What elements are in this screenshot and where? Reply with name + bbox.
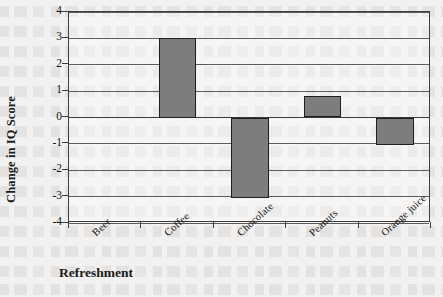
y-axis-tick-label: 3: [40, 32, 62, 44]
gridline: [69, 91, 429, 92]
bar-chocolate[interactable]: [231, 118, 269, 198]
x-axis-tick-mark: [430, 222, 431, 228]
y-axis-tick-labels: 43210-1-2-3-4: [38, 11, 62, 222]
bar-orange-juice[interactable]: [376, 118, 414, 146]
y-axis-tick-label: 0: [40, 111, 62, 123]
x-axis-title: Refreshment: [59, 265, 133, 281]
bar-peanuts[interactable]: [304, 96, 342, 117]
plot-area: [68, 11, 430, 222]
y-axis-tick-label: 2: [40, 58, 62, 70]
x-axis-tick-mark: [285, 222, 286, 228]
y-axis-title-text: Change in IQ Score: [4, 96, 19, 203]
bar-chart: Change in IQ Score 43210-1-2-3-4 BeerCof…: [0, 0, 443, 297]
y-axis-tick-label: -1: [40, 137, 62, 149]
y-axis-title: Change in IQ Score: [2, 84, 20, 214]
bar-coffee[interactable]: [159, 38, 197, 117]
y-axis-tick-label: -4: [40, 216, 62, 228]
y-axis-tick-label: 4: [40, 5, 62, 17]
x-axis-tick-mark: [68, 222, 69, 228]
y-axis-tick-label: 1: [40, 84, 62, 96]
x-axis-tick-mark: [213, 222, 214, 228]
x-axis-tick-mark: [358, 222, 359, 228]
y-axis-tick-label: -3: [40, 190, 62, 202]
gridline: [69, 64, 429, 65]
gridline: [69, 38, 429, 39]
x-axis-tick-mark: [140, 222, 141, 228]
gridline: [69, 12, 429, 13]
y-axis-tick-label: -2: [40, 164, 62, 176]
